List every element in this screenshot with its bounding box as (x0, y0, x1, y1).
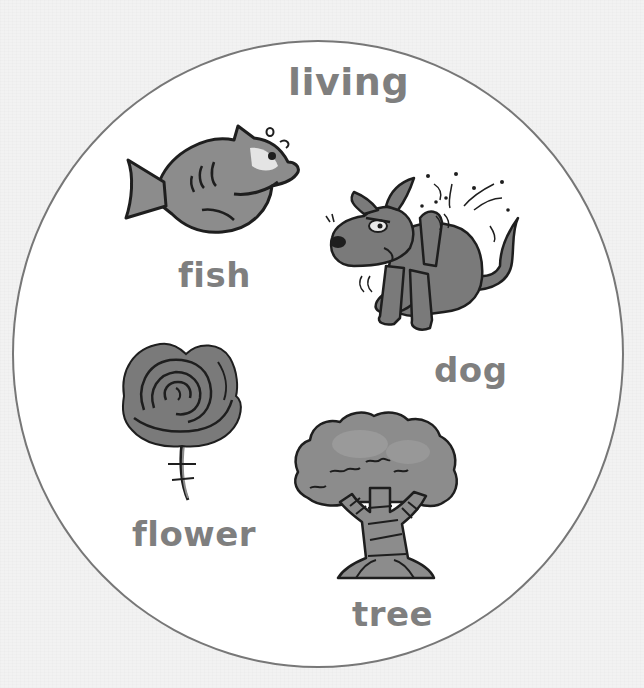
living-things-diagram: living fish (0, 0, 644, 688)
item-label-tree: tree (352, 597, 433, 631)
tree-icon (290, 408, 462, 586)
dog-icon (324, 170, 524, 336)
category-title: living (288, 63, 409, 101)
item-label-dog: dog (434, 353, 508, 387)
item-label-flower: flower (132, 517, 256, 551)
item-label-fish: fish (178, 258, 251, 292)
fish-icon (122, 122, 302, 240)
flower-icon (114, 336, 246, 504)
